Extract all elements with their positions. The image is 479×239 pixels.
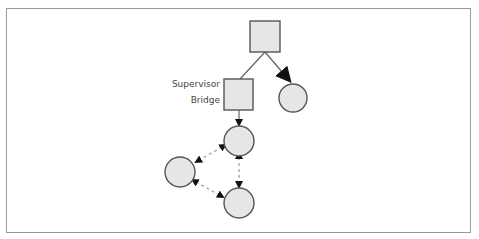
node-top-supervisor bbox=[250, 21, 280, 52]
node-middle-worker bbox=[224, 126, 254, 156]
edge-top-to-right-worker bbox=[265, 52, 289, 80]
diagram-canvas bbox=[0, 0, 479, 239]
label-line-supervisor: Supervisor bbox=[160, 76, 220, 92]
edge-top-to-bridge bbox=[240, 52, 265, 79]
node-right-worker bbox=[279, 84, 307, 112]
edge-middle-left-dashed bbox=[196, 147, 222, 162]
label-line-bridge: Bridge bbox=[160, 92, 220, 108]
supervisor-bridge-label: Supervisor Bridge bbox=[160, 76, 220, 108]
edge-left-bottom-dashed bbox=[196, 182, 223, 197]
node-left-worker bbox=[165, 157, 195, 187]
node-supervisor-bridge bbox=[224, 79, 253, 110]
node-bottom-worker bbox=[224, 188, 254, 218]
